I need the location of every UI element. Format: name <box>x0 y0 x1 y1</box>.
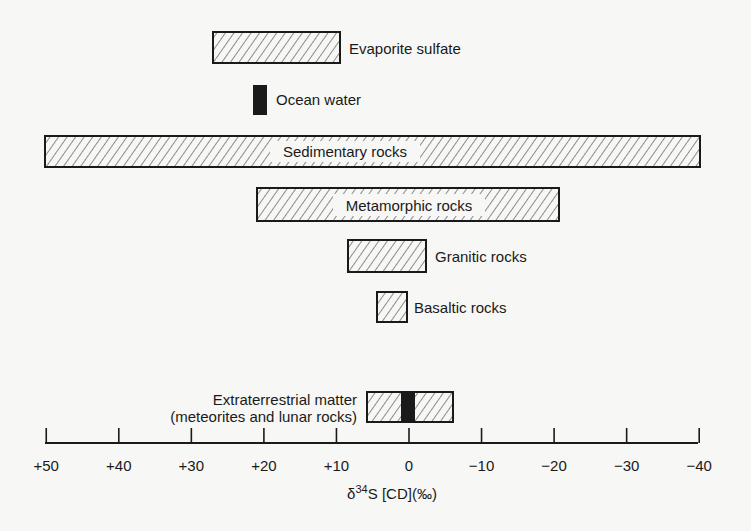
x-axis-label: δ34S [CD](‰) <box>347 483 437 502</box>
x-axis-ticks: +50+40+30+20+100−10−20−30−40 <box>34 428 712 474</box>
x-tick-label: +30 <box>179 457 204 474</box>
sulfur-isotope-range-chart: Evaporite sulfate Ocean water Sedimentar… <box>0 0 751 531</box>
x-tick-label: 0 <box>405 457 413 474</box>
x-tick-label: −10 <box>469 457 494 474</box>
label-extraterrestrial-line2: (meteorites and lunar rocks) <box>170 408 357 425</box>
bar-basaltic-rocks: Basaltic rocks <box>377 292 507 322</box>
bar-granitic-rocks: Granitic rocks <box>348 240 527 272</box>
x-tick-label: +20 <box>251 457 276 474</box>
x-tick-label: −30 <box>614 457 639 474</box>
bar-extraterrestrial-matter: Extraterrestrial matter (meteorites and … <box>170 391 453 425</box>
label-basaltic-rocks: Basaltic rocks <box>414 299 507 316</box>
bar-evaporite-sulfate: Evaporite sulfate <box>213 32 461 63</box>
x-tick-label: +50 <box>34 457 59 474</box>
label-sedimentary-rocks: Sedimentary rocks <box>283 143 407 160</box>
bar-ocean-water: Ocean water <box>253 85 361 115</box>
x-tick-label: +40 <box>106 457 131 474</box>
label-metamorphic-rocks: Metamorphic rocks <box>346 197 473 214</box>
x-tick-label: −20 <box>541 457 566 474</box>
label-evaporite-sulfate: Evaporite sulfate <box>349 40 461 57</box>
bar-sedimentary-rocks: Sedimentary rocks <box>45 136 700 167</box>
x-tick-label: +10 <box>324 457 349 474</box>
x-axis: +50+40+30+20+100−10−20−30−40 δ34S [CD](‰… <box>34 428 712 502</box>
label-extraterrestrial-line1: Extraterrestrial matter <box>213 391 357 408</box>
label-ocean-water: Ocean water <box>276 91 361 108</box>
x-tick-label: −40 <box>686 457 711 474</box>
bar-metamorphic-rocks: Metamorphic rocks <box>257 188 559 221</box>
label-granitic-rocks: Granitic rocks <box>435 248 527 265</box>
